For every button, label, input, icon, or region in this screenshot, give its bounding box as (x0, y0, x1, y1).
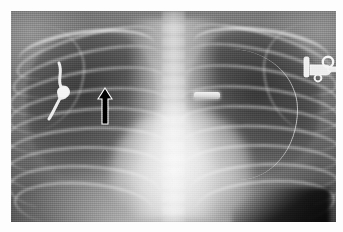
arrow-annotation (97, 87, 113, 125)
radiograph-figure: Chest radiograph (0, 0, 343, 232)
implanted-port-hub (298, 51, 336, 85)
film-frame (11, 11, 336, 222)
radiopaque-marker (194, 92, 220, 99)
catheter-coil (45, 61, 79, 121)
gastric-gas-bubble (232, 188, 330, 222)
